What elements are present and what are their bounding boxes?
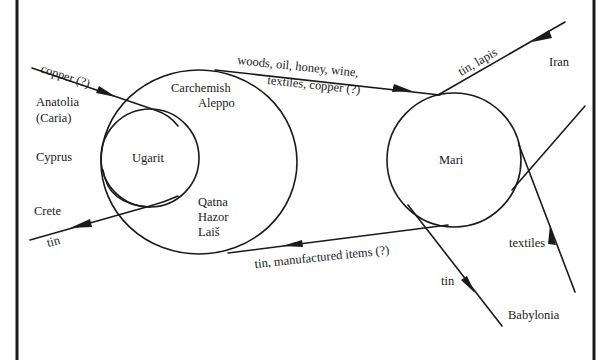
label-textiles-flow: textiles (509, 236, 545, 250)
tin-babylonia-flow-line (408, 205, 502, 326)
label-qatna: Qatna (198, 195, 228, 209)
label-hazor: Hazor (198, 210, 229, 224)
label-caria: (Caria) (36, 111, 71, 125)
tin-crete-arrowhead-icon (70, 219, 92, 228)
label-mari: Mari (439, 153, 464, 167)
textiles-arrowhead-icon (548, 225, 556, 245)
tin-manufactured-arrowhead-icon (282, 240, 303, 247)
mari-east-line (512, 106, 585, 190)
label-tin-crete-flow: tin (45, 233, 62, 250)
label-iran: Iran (549, 55, 570, 69)
copper-arrowhead-icon (96, 86, 116, 97)
label-ugarit: Ugarit (132, 151, 164, 165)
label-copper-flow: copper (?) (39, 62, 92, 91)
tin-lapis-arrowhead-icon (532, 30, 552, 42)
trade-network-diagram: Anatolia (Caria) Cyprus Crete Ugarit Car… (0, 0, 611, 360)
label-crete: Crete (34, 204, 62, 218)
tin-babylonia-arrowhead-icon (461, 276, 475, 293)
westbound-goods-arrowhead-icon (392, 84, 412, 92)
label-lais: Laiš (198, 225, 220, 239)
label-tin-babylonia-flow: tin (441, 274, 455, 288)
label-carchemish: Carchemish (171, 81, 231, 95)
label-aleppo: Aleppo (198, 96, 235, 110)
label-cyprus: Cyprus (36, 150, 72, 164)
tin-crete-flow-line (30, 196, 178, 240)
textiles-flow-line (519, 145, 575, 292)
label-anatolia: Anatolia (36, 95, 79, 109)
label-babylonia: Babylonia (508, 308, 560, 322)
label-tin-lapis-flow: tin, lapis (456, 45, 500, 79)
